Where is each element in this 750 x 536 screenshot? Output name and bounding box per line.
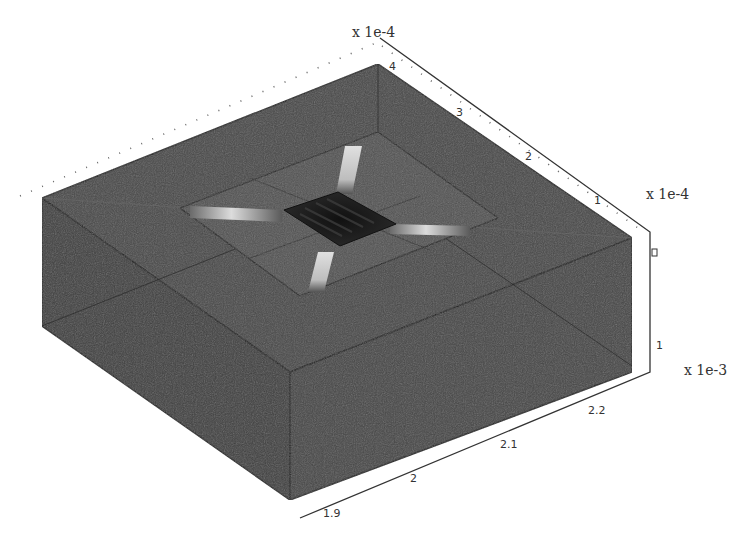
- tether-right: [390, 224, 470, 236]
- 3d-model-view: [0, 0, 750, 536]
- x-axis-multiplier: x 1e-3: [684, 362, 727, 378]
- z-tick: 1: [656, 339, 663, 352]
- x-tick: 2: [410, 472, 417, 485]
- x-tick: 2.1: [500, 438, 518, 451]
- tick-marks: [652, 249, 657, 256]
- y-tick: 4: [389, 60, 396, 73]
- y-axis-multiplier: x 1e-4: [352, 24, 395, 40]
- y-tick: 2: [525, 150, 532, 163]
- y-tick: 3: [456, 106, 463, 119]
- x-tick: 1.9: [323, 507, 341, 520]
- z-axis-multiplier: x 1e-4: [646, 186, 689, 202]
- y-tick: 1: [594, 194, 601, 207]
- x-tick: 2.2: [588, 404, 606, 417]
